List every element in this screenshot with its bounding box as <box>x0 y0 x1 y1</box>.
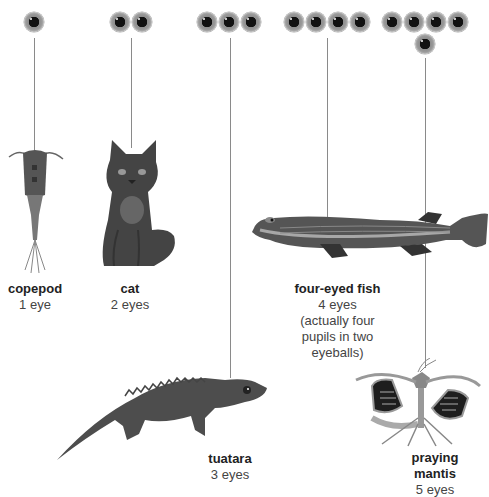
copepod-illustration <box>5 145 65 275</box>
eye-count: 3 eyes <box>190 467 270 483</box>
eye-icon <box>241 12 261 32</box>
animal-name-line: mantis <box>400 466 470 482</box>
tuatara-label: tuatara 3 eyes <box>190 451 270 483</box>
tuatara-illustration <box>55 368 270 463</box>
eye-icon <box>24 12 44 32</box>
animal-name: four-eyed fish <box>275 281 400 297</box>
four-eyed-fish-label: four-eyed fish 4 eyes (actually four pup… <box>275 281 400 361</box>
tuatara-leader-line <box>230 38 231 378</box>
eye-icon <box>219 12 239 32</box>
eye-icon <box>426 12 446 32</box>
note-line: pupils in two <box>275 329 400 345</box>
eye-icon <box>197 12 217 32</box>
eye-icon <box>415 34 435 54</box>
eye-icon <box>350 12 370 32</box>
fish-leader-line <box>327 38 328 218</box>
note-line: eyeballs) <box>275 345 400 361</box>
eye-count: 1 eye <box>0 297 70 313</box>
cat-leader-line <box>131 38 132 148</box>
eye-icon <box>404 12 424 32</box>
four-eyed-fish-illustration <box>250 210 489 270</box>
eye-icon <box>306 12 326 32</box>
copepod-label: copepod 1 eye <box>0 281 70 313</box>
eye-icon <box>110 12 130 32</box>
animal-name: tuatara <box>190 451 270 467</box>
copepod-leader-line <box>34 38 35 158</box>
animal-name: copepod <box>0 281 70 297</box>
eye-icon <box>284 12 304 32</box>
eye-icon <box>328 12 348 32</box>
eye-icon <box>448 12 468 32</box>
note-line: (actually four <box>275 313 400 329</box>
animal-name: cat <box>95 281 165 297</box>
eye-icon <box>382 12 402 32</box>
eye-icon <box>132 12 152 32</box>
praying-mantis-label: praying mantis 5 eyes <box>400 450 470 497</box>
eye-count: 2 eyes <box>95 297 165 313</box>
cat-illustration <box>98 140 180 270</box>
eye-count: 5 eyes <box>400 482 470 497</box>
eye-count: 4 eyes <box>275 297 400 313</box>
praying-mantis-illustration <box>352 358 484 448</box>
cat-label: cat 2 eyes <box>95 281 165 313</box>
animal-name-line: praying <box>400 450 470 466</box>
